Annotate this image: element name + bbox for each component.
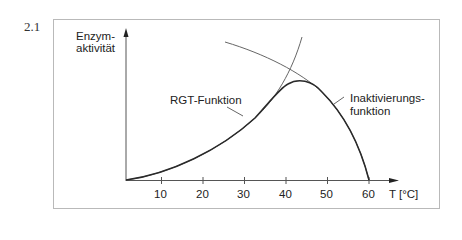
x-axis-label: T [°C] xyxy=(389,188,418,201)
x-tick-20: 20 xyxy=(196,188,209,201)
rgt-leader-line xyxy=(227,107,243,116)
inactivation-label-line1: Inaktivierungs- xyxy=(350,92,425,105)
x-tick-60: 60 xyxy=(362,188,375,201)
x-tick-30: 30 xyxy=(237,188,250,201)
rgt-label: RGT-Funktion xyxy=(170,94,242,107)
activity-curve xyxy=(126,81,369,180)
y-axis-label-line2: aktivität xyxy=(76,42,115,55)
inactivation-leader-line xyxy=(334,97,344,104)
inactivation-curve xyxy=(225,42,369,180)
inactivation-label-line2: funktion xyxy=(350,105,390,118)
y-axis-arrow-icon xyxy=(124,28,129,37)
x-tick-50: 50 xyxy=(320,188,333,201)
x-tick-40: 40 xyxy=(279,188,292,201)
rgt-curve xyxy=(126,37,302,180)
x-tick-10: 10 xyxy=(154,188,167,201)
x-axis-arrow-icon xyxy=(389,178,399,183)
